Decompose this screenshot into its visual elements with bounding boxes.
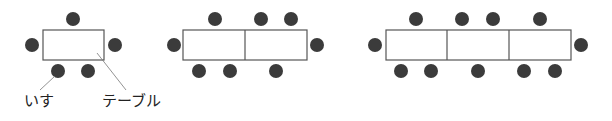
chair-icon	[574, 38, 588, 52]
chair-icon	[394, 64, 408, 78]
table-rect	[43, 30, 104, 60]
chair-icon	[368, 38, 382, 52]
table-rect	[386, 30, 571, 60]
group-three-tables	[368, 12, 588, 78]
chair-icon	[208, 12, 222, 26]
chair-icon	[284, 12, 298, 26]
chair-icon	[471, 64, 485, 78]
chair-icon	[310, 38, 324, 52]
chair-icon	[455, 12, 469, 26]
chair-label: いす	[24, 92, 54, 110]
chair-leader-line	[40, 76, 55, 90]
chair-icon	[486, 12, 500, 26]
chair-icon	[66, 12, 80, 26]
table-label: テーブル	[102, 92, 161, 110]
table-leader-line	[97, 53, 126, 90]
chair-icon	[254, 12, 268, 26]
chair-icon	[269, 64, 283, 78]
table-groups	[25, 12, 588, 78]
chair-icon	[192, 64, 206, 78]
chair-icon	[517, 64, 531, 78]
chair-icon	[409, 12, 423, 26]
chair-icon	[81, 64, 95, 78]
chair-icon	[424, 64, 438, 78]
chair-icon	[108, 38, 122, 52]
chair-icon	[25, 38, 39, 52]
chair-icon	[167, 38, 181, 52]
chair-icon	[548, 64, 562, 78]
group-two-tables	[167, 12, 324, 78]
table-chair-diagram: いす テーブル	[0, 0, 612, 121]
chair-icon	[223, 64, 237, 78]
chair-icon	[533, 12, 547, 26]
annotations: いす テーブル	[24, 53, 161, 110]
group-one-table	[25, 12, 122, 78]
chair-icon	[51, 64, 65, 78]
